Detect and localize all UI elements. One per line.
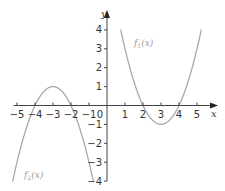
- y-tick-label: −1: [87, 119, 102, 130]
- y-tick-label: 1: [96, 81, 102, 92]
- x-tick-label: 2: [140, 109, 146, 120]
- y-tick-label: 2: [96, 62, 102, 73]
- origin-label: 0: [97, 109, 103, 120]
- y-tick-label: 4: [96, 24, 102, 35]
- curve-label-1: f1(x): [133, 38, 154, 49]
- x-axis-label: x: [211, 108, 217, 119]
- curve-label-2: f2(x): [23, 170, 44, 181]
- x-tick-label: −2: [64, 109, 79, 120]
- curve-f2x: [13, 87, 94, 182]
- y-tick-label: 3: [96, 43, 102, 54]
- y-tick-label: −2: [87, 138, 102, 149]
- x-tick-label: 5: [194, 109, 200, 120]
- x-tick-label: −3: [46, 109, 61, 120]
- function-graph: −5−4−3−2−112345−4−3−2−112340xyf1(x)f2(x): [0, 0, 225, 191]
- x-tick-label: −5: [10, 109, 25, 120]
- x-tick-label: 1: [122, 109, 128, 120]
- axes: [14, 10, 218, 181]
- y-tick-label: −3: [87, 157, 102, 168]
- y-tick-label: −4: [87, 176, 102, 187]
- labels: −5−4−3−2−112345−4−3−2−112340xyf1(x)f2(x): [10, 8, 217, 187]
- x-tick-label: −4: [28, 109, 43, 120]
- y-axis-label: y: [100, 8, 107, 19]
- x-tick-label: −1: [82, 109, 97, 120]
- x-tick-label: 3: [158, 109, 164, 120]
- x-tick-label: 4: [176, 109, 182, 120]
